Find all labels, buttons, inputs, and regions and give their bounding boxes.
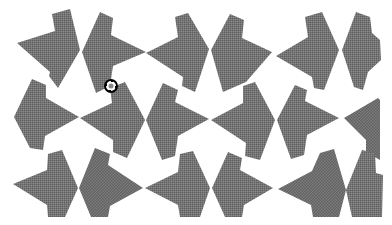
- arrow-tile-i[interactable]: [146, 83, 209, 160]
- arrow-tile-r[interactable]: [346, 150, 383, 217]
- arrow-tile-n[interactable]: [79, 148, 143, 217]
- rotate-move-cursor-icon: [103, 78, 119, 94]
- arrow-tile-o[interactable]: [145, 151, 210, 217]
- arrow-tile-c[interactable]: [146, 13, 209, 92]
- tile-group: [13, 9, 383, 217]
- arrow-tile-d[interactable]: [211, 14, 272, 92]
- arrow-tile-e[interactable]: [276, 12, 339, 90]
- arrow-tile-f[interactable]: [342, 12, 381, 90]
- arrow-tile-a[interactable]: [17, 9, 80, 88]
- arrow-tile-m[interactable]: [13, 150, 78, 217]
- tessellation-canvas[interactable]: [0, 0, 392, 225]
- arrow-tile-k[interactable]: [277, 85, 339, 159]
- arrow-tile-j[interactable]: [211, 82, 275, 160]
- arrow-tile-g[interactable]: [14, 79, 79, 150]
- arrow-tile-q[interactable]: [278, 149, 346, 217]
- arrow-tile-p[interactable]: [212, 152, 273, 217]
